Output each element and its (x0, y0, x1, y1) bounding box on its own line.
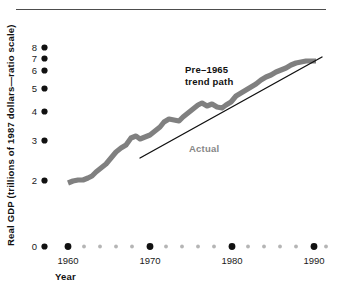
x-axis-dot-1973 (196, 245, 200, 249)
y-tick-dot-3 (41, 137, 47, 143)
y-tick-dot-6 (41, 67, 47, 73)
trend-annotation-line1: Pre–1965 (185, 64, 229, 75)
y-tick-dot-7 (41, 55, 47, 61)
x-tick-label-1980: 1980 (221, 255, 242, 266)
x-axis-title: Year (55, 271, 76, 282)
x-axis-dot-1970 (147, 243, 154, 250)
y-tick-label-4: 4 (32, 106, 37, 117)
x-axis-dot-1960 (65, 243, 72, 250)
y-tick-label-7: 7 (32, 53, 37, 64)
y-tick-dot-5 (41, 85, 47, 91)
x-axis-dot-row (65, 243, 328, 250)
x-tick-label-1960: 1960 (57, 255, 78, 266)
y-tick-label-3: 3 (32, 135, 37, 146)
trend-annotation-line2: trend path (185, 76, 233, 87)
x-axis-dot-1974 (212, 245, 216, 249)
x-axis-dot-1972 (180, 245, 184, 249)
actual-annotation: Actual (189, 143, 219, 154)
x-axis-dot-1981 (246, 245, 250, 249)
y-tick-dot-8 (41, 44, 47, 50)
chart-figure: 8 7 6 5 4 3 2 0 Real GDP (trillions of 1… (0, 0, 341, 285)
y-tick-label-8: 8 (32, 42, 37, 53)
y-tick-label-6: 6 (32, 65, 37, 76)
x-axis-dot-1963 (114, 245, 118, 249)
y-tick-dot-0 (41, 243, 47, 249)
x-axis-dot-end (324, 245, 328, 249)
x-axis-dot-1964 (130, 245, 134, 249)
x-axis-dot-1962 (98, 245, 102, 249)
x-axis-dot-1982 (262, 245, 266, 249)
y-tick-dot-4 (41, 108, 47, 114)
x-tick-label-1990: 1990 (303, 255, 324, 266)
x-axis-dot-1961 (82, 245, 86, 249)
x-axis-dot-1990 (311, 243, 318, 250)
y-tick-dot-2 (41, 177, 47, 183)
y-tick-label-2: 2 (32, 175, 37, 186)
series-trend-line (140, 57, 322, 158)
y-axis: 8 7 6 5 4 3 2 0 (32, 42, 48, 252)
x-tick-label-1970: 1970 (139, 255, 160, 266)
x-axis-dot-1971 (164, 245, 168, 249)
x-axis-dot-1980 (229, 243, 236, 250)
x-axis-dot-1983 (278, 245, 282, 249)
x-axis-dot-1984 (294, 245, 298, 249)
y-axis-title: Real GDP (trillions of 1987 dollars—rati… (5, 24, 16, 246)
y-tick-label-5: 5 (32, 83, 37, 94)
y-tick-label-0: 0 (32, 241, 37, 252)
gdp-line-chart: 8 7 6 5 4 3 2 0 Real GDP (trillions of 1… (0, 0, 341, 285)
x-axis-tick-labels: 1960 1970 1980 1990 (57, 255, 324, 266)
